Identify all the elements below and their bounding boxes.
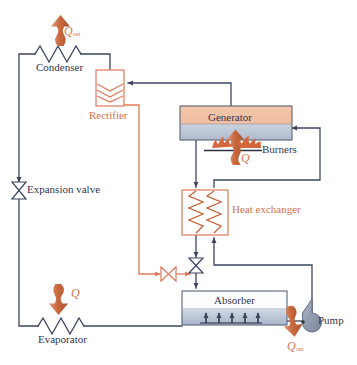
- pump-shaft: [301, 320, 305, 324]
- expansion-valve-icon[interactable]: [12, 182, 26, 199]
- q-symbol: Q: [64, 24, 73, 38]
- rectifier-valve-icon[interactable]: [161, 267, 176, 281]
- q-in-evaporator-label: Q: [71, 287, 80, 299]
- burners-label: Burners: [262, 144, 297, 155]
- q-in-burners-label: Q: [241, 152, 250, 164]
- generator-label: Generator: [208, 112, 252, 123]
- q-subscript: out: [73, 31, 81, 37]
- rectifier-component[interactable]: [96, 70, 124, 106]
- q-out-absorber-label: Qout: [287, 340, 303, 352]
- pipe-condenser-to-rectifier: [81, 54, 110, 70]
- pipe-generator-to-rectifier: [128, 83, 231, 106]
- heat-exchanger-component[interactable]: [182, 190, 228, 235]
- expansion-valve-label: Expansion valve: [27, 184, 100, 195]
- condenser-label: Condenser: [36, 62, 83, 73]
- pump-label: Pump: [318, 315, 344, 326]
- rectifier-return-piping: [110, 105, 190, 274]
- evaporator-coil: [38, 318, 84, 334]
- absorber-label: Absorber: [214, 295, 255, 306]
- solution-valve-icon[interactable]: [189, 258, 203, 273]
- rectifier-label: Rectifier: [89, 110, 127, 121]
- condenser-coil: [35, 46, 81, 62]
- absorption-refrigeration-diagram: Condenser Rectifier Generator Burners He…: [0, 0, 357, 365]
- evaporator-label: Evaporator: [38, 334, 87, 345]
- pipe-expansion-valve-to-evaporator: [19, 199, 38, 326]
- q-out-condenser-label: Qout: [64, 25, 80, 37]
- rectifier-box: [96, 70, 124, 106]
- q-in-evaporator-arrow: [49, 284, 68, 315]
- pipe-condenser-to-expansion-valve: [19, 54, 35, 182]
- q-subscript: out: [296, 346, 304, 352]
- heat-exchanger-box: [182, 190, 228, 235]
- pipe-rectifier-to-valve: [110, 105, 160, 274]
- q-symbol: Q: [287, 339, 296, 353]
- heat-exchanger-label: Heat exchanger: [232, 204, 301, 215]
